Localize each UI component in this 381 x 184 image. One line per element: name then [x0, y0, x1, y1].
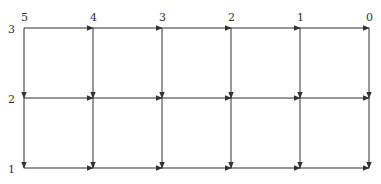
edges [24, 28, 369, 168]
row-label: 3 [8, 24, 15, 35]
column-label: 3 [159, 12, 166, 23]
column-label: 5 [21, 12, 28, 23]
column-label: 2 [228, 12, 235, 23]
column-label: 0 [366, 12, 373, 23]
row-label: 1 [8, 164, 15, 175]
column-label: 1 [297, 12, 304, 23]
column-label: 4 [90, 12, 97, 23]
row-label: 2 [8, 94, 15, 105]
grid-diagram [0, 0, 381, 184]
